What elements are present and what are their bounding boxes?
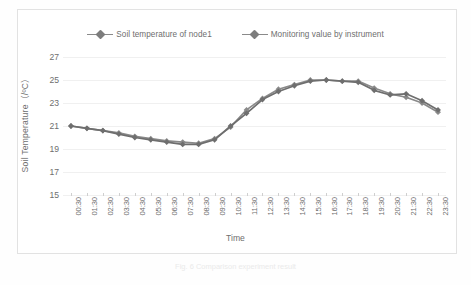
gridline bbox=[63, 195, 446, 196]
y-tick-label: 27 bbox=[37, 52, 59, 62]
x-tick-label: 21:30 bbox=[409, 197, 418, 216]
y-tick-label: 25 bbox=[37, 75, 59, 85]
x-tick-label: 23:30 bbox=[441, 197, 450, 216]
x-tick-label: 04:30 bbox=[138, 197, 147, 216]
figure-caption: Fig. 6 Comparison experiment result bbox=[0, 262, 471, 271]
x-tick-label: 09:30 bbox=[218, 197, 227, 216]
x-tick-mark bbox=[247, 193, 248, 196]
data-point-marker bbox=[68, 123, 74, 129]
x-tick-label: 05:30 bbox=[154, 197, 163, 216]
data-point-marker bbox=[323, 77, 329, 83]
x-tick-mark bbox=[294, 193, 295, 196]
x-tick-label: 17:30 bbox=[345, 197, 354, 216]
x-tick-mark bbox=[183, 193, 184, 196]
x-tick-label: 16:30 bbox=[330, 197, 339, 216]
x-tick-label: 20:30 bbox=[393, 197, 402, 216]
y-tick-label: 17 bbox=[37, 167, 59, 177]
x-tick-label: 18:30 bbox=[361, 197, 370, 216]
legend-key-node1 bbox=[87, 30, 113, 39]
legend-entry-instrument[interactable]: Monitoring value by instrument bbox=[242, 30, 384, 39]
x-axis-title: Time bbox=[0, 233, 471, 243]
x-tick-mark bbox=[199, 193, 200, 196]
diamond-marker-icon bbox=[250, 30, 260, 40]
x-tick-label: 03:30 bbox=[122, 197, 131, 216]
x-tick-mark bbox=[151, 193, 152, 196]
x-tick-label: 13:30 bbox=[282, 197, 291, 216]
x-tick-label: 01:30 bbox=[90, 197, 99, 216]
series-2 bbox=[68, 77, 441, 147]
x-tick-mark bbox=[390, 193, 391, 196]
x-tick-mark bbox=[215, 193, 216, 196]
x-tick-label: 14:30 bbox=[298, 197, 307, 216]
data-point-marker bbox=[84, 125, 90, 131]
legend-label-instrument: Monitoring value by instrument bbox=[271, 30, 384, 39]
x-tick-mark bbox=[231, 193, 232, 196]
x-tick-mark bbox=[342, 193, 343, 196]
series-line bbox=[71, 80, 438, 144]
legend-entry-node1[interactable]: Soil temperature of node1 bbox=[87, 30, 211, 39]
data-point-marker bbox=[355, 79, 361, 85]
x-axis-ticks: 00:3001:3002:3003:3004:3005:3006:3007:30… bbox=[63, 197, 446, 235]
y-axis-title: Soil Temperature（/ºC） bbox=[18, 48, 30, 198]
x-tick-mark bbox=[119, 193, 120, 196]
data-point-marker bbox=[100, 128, 106, 134]
y-tick-label: 19 bbox=[37, 144, 59, 154]
diamond-marker-icon bbox=[95, 30, 105, 40]
x-tick-mark bbox=[167, 193, 168, 196]
x-tick-mark bbox=[406, 193, 407, 196]
x-tick-label: 22:30 bbox=[425, 197, 434, 216]
y-axis-ticks: 15171921232527 bbox=[33, 57, 59, 195]
x-tick-label: 12:30 bbox=[266, 197, 275, 216]
x-tick-mark bbox=[422, 193, 423, 196]
data-point-marker bbox=[307, 78, 313, 84]
series-line bbox=[71, 80, 438, 143]
x-tick-mark bbox=[262, 193, 263, 196]
y-tick-label: 15 bbox=[37, 190, 59, 200]
x-tick-mark bbox=[278, 193, 279, 196]
x-tick-label: 00:30 bbox=[74, 197, 83, 216]
x-tick-mark bbox=[71, 193, 72, 196]
x-tick-mark bbox=[310, 193, 311, 196]
legend-label-node1: Soil temperature of node1 bbox=[116, 30, 211, 39]
x-tick-label: 10:30 bbox=[234, 197, 243, 216]
data-point-marker bbox=[339, 78, 345, 84]
x-tick-mark bbox=[135, 193, 136, 196]
x-tick-label: 02:30 bbox=[106, 197, 115, 216]
figure-container: Soil temperature of node1 Monitoring val… bbox=[0, 0, 471, 285]
x-tick-label: 19:30 bbox=[377, 197, 386, 216]
x-tick-mark bbox=[358, 193, 359, 196]
chart-legend: Soil temperature of node1 Monitoring val… bbox=[0, 26, 471, 42]
x-tick-label: 15:30 bbox=[314, 197, 323, 216]
x-tick-mark bbox=[87, 193, 88, 196]
x-tick-mark bbox=[103, 193, 104, 196]
x-tick-mark bbox=[326, 193, 327, 196]
y-tick-label: 23 bbox=[37, 98, 59, 108]
y-tick-label: 21 bbox=[37, 121, 59, 131]
legend-key-instrument bbox=[242, 30, 268, 39]
x-tick-mark bbox=[438, 193, 439, 196]
plot-area bbox=[63, 57, 446, 195]
x-tick-mark bbox=[374, 193, 375, 196]
x-tick-label: 06:30 bbox=[170, 197, 179, 216]
x-tick-label: 08:30 bbox=[202, 197, 211, 216]
data-point-marker bbox=[403, 91, 409, 97]
x-tick-label: 07:30 bbox=[186, 197, 195, 216]
x-tick-label: 11:30 bbox=[250, 197, 259, 215]
series-layer bbox=[63, 57, 446, 195]
